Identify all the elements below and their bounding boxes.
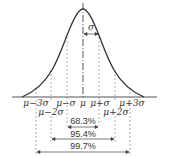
label-mu-minus-2sigma: μ−2σ [38, 107, 64, 117]
normal-distribution-diagram: σ μ−3σ μ−σ μ μ+σ μ+3σ μ−2σ μ+2σ 68.3% 95… [0, 0, 169, 157]
sigma-width-arrow [84, 33, 98, 36]
interval-68-label: 68.3% [70, 116, 96, 126]
label-mu: μ [80, 98, 86, 108]
sigma-label: σ [88, 22, 95, 32]
label-mu-plus-2sigma: μ+2σ [103, 107, 129, 117]
interval-99-label: 99.7% [70, 141, 96, 151]
interval-95-label: 95.4% [70, 129, 96, 139]
